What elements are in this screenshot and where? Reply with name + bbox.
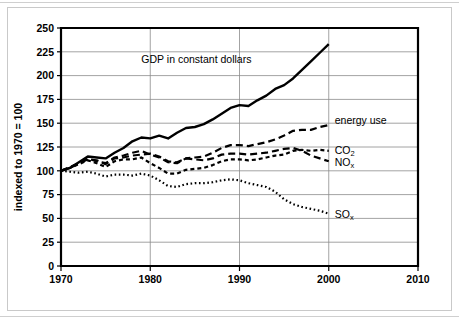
series-line-nox bbox=[61, 148, 329, 171]
y-axis-title: indexed to 1970 = 100 bbox=[12, 103, 24, 211]
page-bottom-rule bbox=[0, 316, 459, 317]
y-tick-label: 75 bbox=[42, 188, 54, 200]
x-tick-label: 2010 bbox=[406, 273, 430, 285]
series-label-energy-use: energy use bbox=[335, 114, 387, 126]
y-tick-label: 200 bbox=[36, 69, 54, 81]
gdp-annotation: GDP in constant dollars bbox=[141, 53, 251, 65]
y-tick-label: 175 bbox=[36, 93, 54, 105]
y-tick-label: 100 bbox=[36, 165, 54, 177]
y-tick-label: 25 bbox=[42, 236, 54, 248]
x-tick-label: 2000 bbox=[317, 273, 341, 285]
y-tick-label: 50 bbox=[42, 212, 54, 224]
series-line-sox bbox=[61, 171, 329, 214]
x-tick-label: 1990 bbox=[228, 273, 252, 285]
y-tick-label: 0 bbox=[48, 260, 54, 272]
x-tick-label: 1980 bbox=[139, 273, 163, 285]
y-tick-label: 225 bbox=[36, 46, 54, 58]
series-label-sox: SOx bbox=[335, 208, 354, 223]
line-chart: 0255075100125150175200225250197019801990… bbox=[8, 8, 451, 310]
chart-page: 0255075100125150175200225250197019801990… bbox=[0, 0, 459, 319]
y-tick-label: 250 bbox=[36, 22, 54, 34]
x-tick-label: 1970 bbox=[49, 273, 73, 285]
y-tick-label: 150 bbox=[36, 117, 54, 129]
chart-card: 0255075100125150175200225250197019801990… bbox=[7, 7, 452, 311]
y-tick-label: 125 bbox=[36, 141, 54, 153]
page-top-rule bbox=[0, 2, 459, 3]
series-line-co2 bbox=[61, 150, 329, 174]
